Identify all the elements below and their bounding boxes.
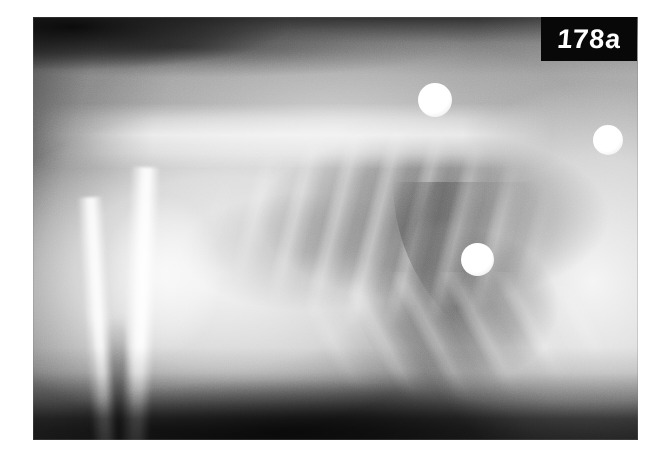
figure-label-text: 178a bbox=[556, 26, 623, 53]
figure-label-box: 178a bbox=[541, 17, 637, 61]
radiograph-image: 178a bbox=[33, 17, 638, 440]
page-root: 178a bbox=[0, 0, 663, 460]
film-border bbox=[33, 17, 638, 440]
